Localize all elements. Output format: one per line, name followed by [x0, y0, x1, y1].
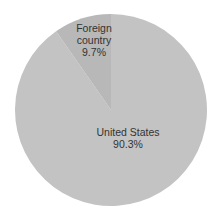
united-states-label: United States 90.3% [88, 126, 168, 150]
foreign-label-line1: Foreign [66, 22, 122, 34]
foreign-label-line2: country [66, 34, 122, 46]
us-value: 90.3% [88, 138, 168, 150]
foreign-value: 9.7% [66, 46, 122, 58]
us-label-name: United States [88, 126, 168, 138]
foreign-country-label: Foreign country 9.7% [66, 22, 122, 58]
